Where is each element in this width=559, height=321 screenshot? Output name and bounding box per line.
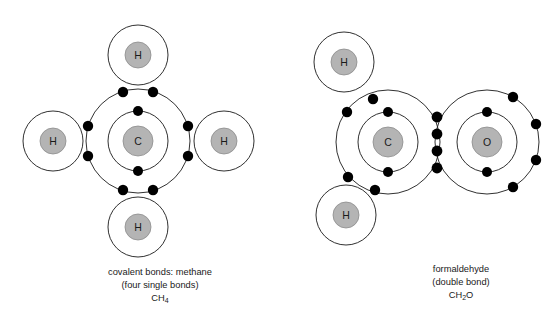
lone-electron-dot xyxy=(531,155,541,165)
lone-electron-dot xyxy=(531,119,541,129)
formaldehyde-caption-line1: formaldehyde xyxy=(433,264,489,274)
formaldehyde-caption-line2: (double bond) xyxy=(432,277,489,287)
bond-electron-dot xyxy=(118,185,128,195)
panel-methane: C H H H H covalent bonds: methane (four … xyxy=(23,25,254,304)
double-bond-electron-dot xyxy=(432,129,443,140)
methane-formula: CH4 xyxy=(151,293,168,304)
oxygen-nucleus-label: O xyxy=(483,136,491,148)
bond-electron-dot xyxy=(183,121,193,131)
methane-formula-subscript: 4 xyxy=(165,297,169,304)
hydrogen-label-left: H xyxy=(49,135,57,147)
electron-dot xyxy=(133,106,143,116)
electron-dot xyxy=(482,107,492,117)
lone-electron-dot xyxy=(508,92,518,102)
double-bond-electron-dot xyxy=(432,146,443,157)
bond-electron-dot xyxy=(343,172,353,182)
formaldehyde-formula-tail: O xyxy=(466,290,473,300)
bond-electron-dot xyxy=(342,107,352,117)
methane-formula-main: CH xyxy=(151,293,164,303)
electron-dot xyxy=(383,107,393,117)
panel-formaldehyde: C O H H formaldehyde (double bond) CH2O xyxy=(314,32,541,301)
bond-electron-dot xyxy=(83,121,93,131)
covalent-bonding-diagram: C H H H H covalent bonds: methane (four … xyxy=(0,0,559,321)
double-bond-electron-dot xyxy=(432,163,443,174)
carbon-nucleus-label: C xyxy=(134,135,142,147)
methane-caption-line1: covalent bonds: methane xyxy=(108,267,212,277)
lone-electron-dot xyxy=(508,182,518,192)
hydrogen-label-right: H xyxy=(220,135,228,147)
electron-dot xyxy=(482,167,492,177)
hydrogen-label-upperleft: H xyxy=(340,56,348,68)
methane-nuclei: C H H H H xyxy=(40,42,237,240)
double-bond-electrons xyxy=(432,112,443,174)
methane-caption-line2: (four single bonds) xyxy=(122,280,199,290)
bond-electron-dot xyxy=(83,151,93,161)
double-bond-electron-dot xyxy=(432,112,443,123)
formaldehyde-caption: formaldehyde (double bond) CH2O xyxy=(432,264,489,301)
electron-dot xyxy=(133,166,143,176)
bond-electron-dot xyxy=(148,87,158,97)
fa-carbon-nucleus-label: C xyxy=(384,136,392,148)
formaldehyde-nuclei: C O H H xyxy=(331,49,502,228)
bond-electron-dot xyxy=(370,185,380,195)
hydrogen-label-bottom: H xyxy=(134,221,142,233)
oxygen-outer-electrons xyxy=(508,92,541,192)
bond-electron-dot xyxy=(118,87,128,97)
bond-electron-dot xyxy=(183,151,193,161)
hydrogen-label-top: H xyxy=(134,49,142,61)
diagram-canvas: C H H H H covalent bonds: methane (four … xyxy=(0,0,559,321)
formaldehyde-formula: CH2O xyxy=(449,290,474,301)
formaldehyde-formula-main: CH xyxy=(449,290,462,300)
methane-caption: covalent bonds: methane (four single bon… xyxy=(108,267,212,304)
bond-electron-dot xyxy=(148,185,158,195)
bond-electron-dot xyxy=(368,94,378,104)
hydrogen-label-lowerleft: H xyxy=(342,209,350,221)
electron-dot xyxy=(383,167,393,177)
